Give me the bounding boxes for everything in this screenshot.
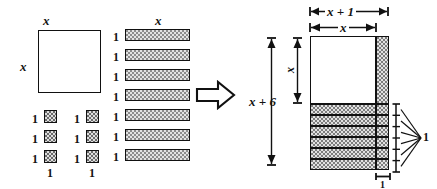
x-strip-label-2: 1 (113, 51, 119, 63)
assembled-x-strip (310, 115, 376, 126)
x-strip-tile (125, 149, 190, 161)
assembled-x-strip (310, 137, 376, 148)
right-brace-label: 1 (423, 131, 429, 143)
x-strip-label-3: 1 (113, 71, 119, 83)
unit-tile (44, 150, 57, 163)
x-strip-tile (125, 89, 190, 101)
x-strip-tile (125, 49, 190, 61)
assembled-unit-tile (376, 137, 389, 148)
unit-tile (44, 130, 57, 143)
x-strip-label-1: 1 (113, 31, 119, 43)
assembled-vertical-x-strip (376, 36, 389, 104)
unit-tile (86, 150, 99, 163)
unit-row-label-1b: 1 (74, 113, 80, 125)
assembled-x-strip (310, 159, 376, 170)
assembled-unit-tile (376, 115, 389, 126)
top-dimension-outer-label: x + 1 (325, 5, 356, 18)
assembled-x-squared-tile (310, 36, 376, 104)
unit-row-label-3: 1 (32, 153, 38, 165)
x-strip-tile (125, 109, 190, 121)
x-strip-label-6: 1 (113, 131, 119, 143)
unit-bottom-label-1: 1 (47, 167, 53, 179)
assembled-unit-tile (376, 104, 389, 115)
unit-tile (86, 130, 99, 143)
x-strip-tile (125, 29, 190, 41)
assembled-unit-tile (376, 159, 389, 170)
top-dimension-inner-label: x (338, 21, 349, 34)
algebra-tiles-diagram: x x 1 1 1 1 1 1 1 1 x 1 1 1 1 1 1 1 (0, 0, 437, 189)
x-strip-tile (125, 69, 190, 81)
unit-row-label-3b: 1 (74, 153, 80, 165)
x-strip-label-7: 1 (113, 151, 119, 163)
assembled-x-strip (310, 104, 376, 115)
assembled-x-strip (310, 126, 376, 137)
assembled-x-strip (310, 148, 376, 159)
x-strip-top-label: x (155, 14, 162, 27)
left-dimension-outer-label: x + 6 (249, 95, 276, 108)
x-square-top-label: x (43, 14, 50, 27)
unit-tile (86, 110, 99, 123)
bottom-dimension-label: 1 (380, 180, 385, 189)
unit-row-label-2b: 1 (74, 133, 80, 145)
x-square-left-label: x (20, 60, 27, 73)
left-dimension-inner-label: x (284, 63, 296, 77)
unit-bottom-label-2: 1 (89, 167, 95, 179)
right-block-arrow-icon (196, 80, 236, 110)
assembled-unit-tile (376, 126, 389, 137)
unit-row-label-1: 1 (32, 113, 38, 125)
unit-row-label-2: 1 (32, 133, 38, 145)
x-strip-label-5: 1 (113, 111, 119, 123)
right-unit-height-brace (392, 100, 437, 176)
assembled-unit-tile (376, 148, 389, 159)
x-strip-label-4: 1 (113, 91, 119, 103)
unit-tile (44, 110, 57, 123)
x-strip-tile (125, 129, 190, 141)
x-squared-tile (38, 30, 101, 93)
